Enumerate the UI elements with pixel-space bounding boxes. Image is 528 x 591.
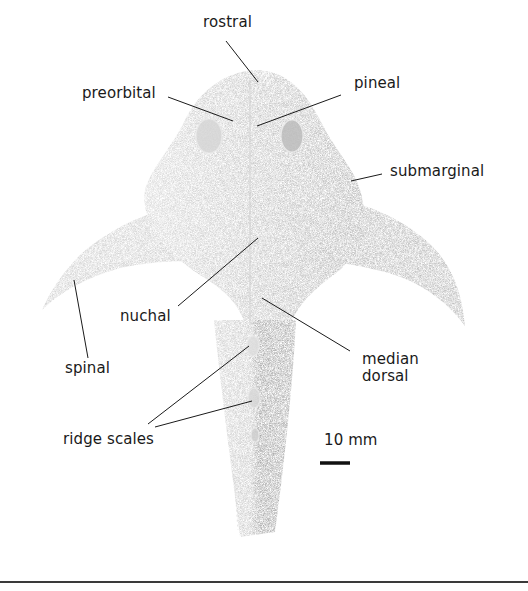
right-orbit xyxy=(281,120,303,152)
label-submarginal: submarginal xyxy=(390,163,484,180)
leader-submarginal xyxy=(351,174,382,181)
label-dorsal: dorsal xyxy=(362,368,419,385)
label-nuchal: nuchal xyxy=(120,308,171,325)
headshield xyxy=(144,70,364,325)
label-median: median xyxy=(362,351,419,368)
fossil-body xyxy=(42,70,465,537)
ridge-scale-3 xyxy=(251,428,259,442)
fossil-illustration xyxy=(0,0,528,591)
ridge-scale-2 xyxy=(248,388,260,408)
label-spinal: spinal xyxy=(65,360,110,377)
left-orbit xyxy=(196,119,222,153)
scale-bar-label: 10 mm xyxy=(324,432,378,449)
bottom-rule xyxy=(0,581,528,583)
label-preorbital: preorbital xyxy=(82,85,156,102)
label-median-dorsal: median dorsal xyxy=(362,351,419,385)
label-ridge-scales: ridge scales xyxy=(63,431,154,448)
label-rostral: rostral xyxy=(203,14,252,31)
anatomical-figure: rostral preorbital pineal submarginal nu… xyxy=(0,0,528,591)
leader-spinal xyxy=(74,280,88,358)
label-pineal: pineal xyxy=(354,75,400,92)
